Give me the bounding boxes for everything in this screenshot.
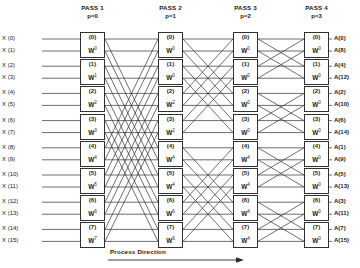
butterfly-node-p1-7[interactable]: (7)W7: [80, 222, 105, 248]
butterfly-index-label: (7): [234, 224, 257, 231]
fft-flow-diagram: PASS 1p=0PASS 2p=1PASS 3p=2PASS 4p=3 (0)…: [0, 0, 360, 268]
butterfly-node-p1-3[interactable]: (3)W3: [80, 114, 105, 140]
output-label-15: A(15): [334, 237, 349, 244]
butterfly-index-label: (6): [234, 197, 257, 204]
output-label-0: A(0): [334, 35, 346, 42]
twiddle-exponent: 4: [172, 155, 175, 160]
pass-header-4: PASS 4p=3: [289, 4, 345, 20]
output-label-7: A(14): [334, 129, 349, 136]
twiddle-exponent: 2: [172, 100, 175, 105]
twiddle-factor-label: W4: [234, 154, 257, 164]
butterfly-node-p2-6[interactable]: (6)W6: [158, 195, 183, 221]
butterfly-node-p1-6[interactable]: (6)W6: [80, 195, 105, 221]
butterfly-node-p4-3[interactable]: (3)W0: [304, 114, 329, 140]
input-label-11: X (11): [2, 183, 18, 190]
butterfly-node-p4-7[interactable]: (7)W0: [304, 222, 329, 248]
butterfly-node-p3-0[interactable]: (0)W0: [233, 32, 258, 58]
output-label-5: A(10): [334, 101, 349, 108]
butterfly-node-p4-0[interactable]: (0)W0: [304, 32, 329, 58]
butterfly-node-p3-7[interactable]: (7)W4: [233, 222, 258, 248]
butterfly-index-label: (2): [305, 88, 328, 95]
input-label-12: X (12): [2, 198, 18, 205]
butterfly-node-p3-1[interactable]: (1)W0: [233, 59, 258, 85]
butterfly-node-p1-2[interactable]: (2)W2: [80, 86, 105, 112]
twiddle-exponent: 7: [94, 236, 97, 241]
butterfly-node-p3-6[interactable]: (6)W4: [233, 195, 258, 221]
butterfly-node-p2-1[interactable]: (1)W0: [158, 59, 183, 85]
butterfly-node-p1-4[interactable]: (4)W4: [80, 141, 105, 167]
twiddle-factor-label: W0: [305, 181, 328, 191]
butterfly-node-p4-2[interactable]: (2)W0: [304, 86, 329, 112]
twiddle-exponent: 0: [172, 46, 175, 51]
butterfly-node-p1-0[interactable]: (0)W0: [80, 32, 105, 58]
butterfly-index-label: (4): [234, 143, 257, 150]
butterfly-node-p3-2[interactable]: (2)W0: [233, 86, 258, 112]
input-label-15: X (15): [2, 237, 18, 244]
twiddle-factor-label: W2: [81, 99, 104, 109]
butterfly-index-label: (1): [159, 61, 182, 68]
butterfly-node-p1-5[interactable]: (5)W5: [80, 168, 105, 194]
butterfly-node-p3-4[interactable]: (4)W4: [233, 141, 258, 167]
twiddle-exponent: 0: [247, 73, 250, 78]
butterfly-node-p3-5[interactable]: (5)W4: [233, 168, 258, 194]
butterfly-index-label: (0): [305, 34, 328, 41]
output-label-14: A(7): [334, 225, 346, 232]
butterfly-node-p2-5[interactable]: (5)W4: [158, 168, 183, 194]
butterfly-node-p2-2[interactable]: (2)W2: [158, 86, 183, 112]
butterfly-node-p4-1[interactable]: (1)W0: [304, 59, 329, 85]
input-label-9: X (9): [2, 156, 15, 163]
twiddle-factor-label: W6: [81, 208, 104, 218]
twiddle-exponent: 0: [318, 182, 321, 187]
pass-name: PASS 2: [143, 4, 199, 12]
twiddle-factor-label: W2: [159, 99, 182, 109]
twiddle-factor-label: W4: [234, 235, 257, 245]
twiddle-factor-label: W4: [159, 154, 182, 164]
butterfly-node-p3-3[interactable]: (3)W0: [233, 114, 258, 140]
input-label-7: X (7): [2, 129, 15, 136]
butterfly-node-p4-5[interactable]: (5)W0: [304, 168, 329, 194]
twiddle-factor-label: W0: [234, 99, 257, 109]
butterfly-index-label: (4): [81, 143, 104, 150]
butterfly-node-p2-3[interactable]: (3)W2: [158, 114, 183, 140]
butterfly-index-label: (4): [159, 143, 182, 150]
twiddle-exponent: 4: [247, 236, 250, 241]
twiddle-factor-label: W0: [305, 99, 328, 109]
twiddle-exponent: 0: [318, 100, 321, 105]
butterfly-node-p2-7[interactable]: (7)W6: [158, 222, 183, 248]
twiddle-factor-label: W7: [81, 235, 104, 245]
butterfly-index-label: (4): [305, 143, 328, 150]
pass-header-1: PASS 1p=0: [65, 4, 121, 20]
twiddle-exponent: 1: [94, 73, 97, 78]
butterfly-node-p1-1[interactable]: (1)W1: [80, 59, 105, 85]
butterfly-node-p4-6[interactable]: (6)W0: [304, 195, 329, 221]
twiddle-factor-label: W4: [81, 154, 104, 164]
butterfly-node-p4-4[interactable]: (4)W0: [304, 141, 329, 167]
output-label-11: A(13): [334, 183, 349, 190]
butterfly-index-label: (1): [81, 61, 104, 68]
twiddle-exponent: 0: [247, 46, 250, 51]
twiddle-factor-label: W0: [159, 72, 182, 82]
input-label-5: X (5): [2, 101, 15, 108]
butterfly-node-p2-4[interactable]: (4)W4: [158, 141, 183, 167]
twiddle-exponent: 2: [94, 100, 97, 105]
pass-name: PASS 4: [289, 4, 345, 12]
twiddle-exponent: 0: [172, 73, 175, 78]
output-label-8: A(1): [334, 144, 346, 151]
input-label-14: X (14): [2, 225, 18, 232]
input-label-0: X (0): [2, 35, 15, 42]
butterfly-index-label: (5): [159, 170, 182, 177]
twiddle-exponent: 0: [318, 128, 321, 133]
output-label-10: A(5): [334, 171, 346, 178]
input-label-6: X (6): [2, 117, 15, 124]
butterfly-index-label: (0): [159, 34, 182, 41]
butterfly-node-p2-0[interactable]: (0)W0: [158, 32, 183, 58]
twiddle-factor-label: W2: [159, 127, 182, 137]
twiddle-factor-label: W4: [234, 208, 257, 218]
pass-header-2: PASS 2p=1: [143, 4, 199, 20]
twiddle-exponent: 0: [94, 46, 97, 51]
twiddle-factor-label: W0: [234, 127, 257, 137]
twiddle-factor-label: W5: [81, 181, 104, 191]
butterfly-index-label: (6): [305, 197, 328, 204]
butterfly-index-label: (3): [305, 116, 328, 123]
butterfly-index-label: (3): [234, 116, 257, 123]
